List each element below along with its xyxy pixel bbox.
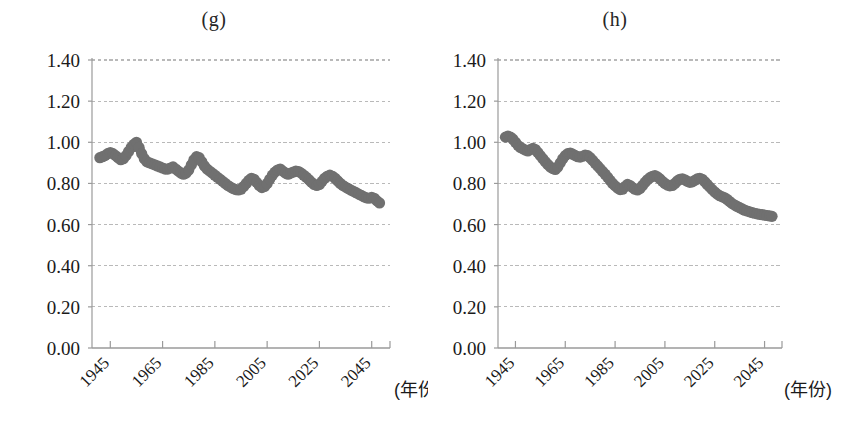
data-point: [766, 211, 777, 222]
ytick-label: 0.40: [453, 256, 486, 277]
data-point: [374, 197, 385, 208]
xtick-label: 2005: [232, 353, 269, 390]
ytick-label: 0.20: [453, 297, 486, 318]
xtick-label: 1945: [481, 353, 518, 390]
ytick-label: 0.20: [47, 297, 80, 318]
ytick-label: 1.20: [453, 91, 486, 112]
ytick-label: 0.60: [453, 215, 486, 236]
ytick-label: 1.00: [453, 132, 486, 153]
ytick-label: 1.40: [453, 50, 486, 71]
xtick-label: 1985: [580, 353, 617, 390]
panel-g-xtick-labels: 194519651985200520252045: [76, 353, 375, 390]
ytick-label: 0.40: [47, 256, 80, 277]
xtick-label: 2045: [730, 353, 767, 390]
x-axis-unit-label: (年份): [784, 380, 832, 400]
panel-g-ytick-labels: 0.000.200.400.600.801.001.201.40: [47, 50, 80, 359]
xtick-label: 1945: [76, 353, 113, 390]
xtick-label: 1985: [180, 353, 217, 390]
x-axis-unit-label: (年份): [394, 380, 428, 400]
ytick-label: 0.60: [47, 215, 80, 236]
xtick-label: 1965: [128, 353, 165, 390]
xtick-label: 2025: [285, 353, 322, 390]
panel-g-x-unit-label: (年份): [394, 380, 428, 400]
panel-g-data-series: [94, 137, 385, 209]
ytick-label: 0.00: [47, 338, 80, 359]
panel-g: (g) 0.000.200.400.600.801.001.201.40 194…: [0, 0, 428, 428]
panel-g-plot: 0.000.200.400.600.801.001.201.40 1945196…: [0, 0, 428, 428]
xtick-label: 2025: [680, 353, 717, 390]
ytick-label: 1.20: [47, 91, 80, 112]
panel-h-data-series: [500, 131, 778, 222]
ytick-label: 0.00: [453, 338, 486, 359]
panel-h-xtick-labels: 194519651985200520252045: [481, 353, 768, 390]
panel-h-ytick-labels: 0.000.200.400.600.801.001.201.40: [453, 50, 486, 359]
panel-h-x-unit-label: (年份): [784, 380, 832, 400]
ytick-label: 0.80: [453, 173, 486, 194]
xtick-label: 2005: [630, 353, 667, 390]
panel-h-plot: 0.000.200.400.600.801.001.201.40 1945196…: [428, 0, 856, 428]
figure-two-panel-chart: (g) 0.000.200.400.600.801.001.201.40 194…: [0, 0, 856, 428]
ytick-label: 1.00: [47, 132, 80, 153]
ytick-label: 1.40: [47, 50, 80, 71]
xtick-label: 2045: [337, 353, 374, 390]
panel-h: (h) 0.000.200.400.600.801.001.201.40 194…: [428, 0, 856, 428]
xtick-label: 1965: [531, 353, 568, 390]
ytick-label: 0.80: [47, 173, 80, 194]
